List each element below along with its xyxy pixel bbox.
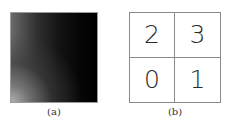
grid-cell-bottom-left: 0 <box>130 58 175 103</box>
grid-cell-top-right: 3 <box>175 13 220 58</box>
caption-b: (b) <box>155 106 195 117</box>
grid-cell-bottom-right: 1 <box>175 58 220 103</box>
quadrant-grid: 2 3 0 1 <box>129 12 221 103</box>
grid-cell-top-left: 2 <box>130 13 175 58</box>
gradient-image <box>10 12 98 103</box>
caption-a: (a) <box>34 106 74 117</box>
